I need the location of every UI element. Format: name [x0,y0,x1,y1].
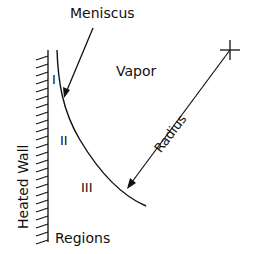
center-cross-icon [220,40,240,60]
region-3-label: III [81,181,93,194]
meniscus-label: Meniscus [70,6,135,20]
regions-label: Regions [55,231,110,245]
wall-hatching [36,56,48,244]
meniscus-arrow [63,28,93,98]
region-2-label: II [60,134,68,147]
heated-wall-label: Heated Wall [16,145,30,229]
vapor-label: Vapor [116,64,156,78]
region-1-label: I [52,73,56,86]
diagram-canvas [0,0,255,254]
heated-wall [36,50,48,244]
